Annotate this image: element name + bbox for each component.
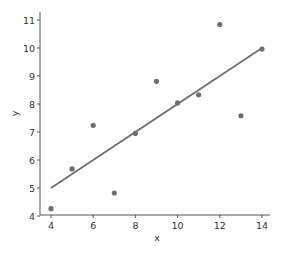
data-point	[91, 123, 96, 128]
data-point	[154, 79, 159, 84]
fit-line-group	[51, 48, 262, 188]
data-point	[175, 100, 180, 105]
y-tick-label: 9	[29, 71, 35, 82]
fit-line	[51, 48, 262, 188]
x-tick-label: 6	[90, 220, 96, 231]
axes: 4681012144567891011	[23, 12, 270, 231]
data-point	[217, 22, 222, 27]
x-axis-label: x	[154, 232, 160, 243]
x-tick-label: 8	[132, 220, 138, 231]
y-tick-label: 6	[29, 155, 35, 166]
data-point	[196, 92, 201, 97]
data-point	[112, 190, 117, 195]
data-point	[259, 47, 264, 52]
y-axis-label: y	[9, 110, 20, 116]
data-point	[48, 206, 53, 211]
data-point	[133, 131, 138, 136]
scatter-chart: 4681012144567891011 x y	[0, 0, 284, 258]
x-tick-label: 12	[214, 220, 226, 231]
y-tick-label: 11	[23, 15, 35, 26]
y-tick-label: 8	[29, 99, 35, 110]
x-tick-label: 14	[256, 220, 268, 231]
x-tick-label: 10	[172, 220, 184, 231]
y-tick-label: 10	[23, 43, 35, 54]
y-tick-label: 7	[29, 127, 35, 138]
points-group	[48, 22, 264, 211]
data-point	[70, 166, 75, 171]
data-point	[238, 113, 243, 118]
y-tick-label: 5	[29, 183, 35, 194]
y-tick-label: 4	[29, 211, 35, 222]
x-tick-label: 4	[48, 220, 54, 231]
